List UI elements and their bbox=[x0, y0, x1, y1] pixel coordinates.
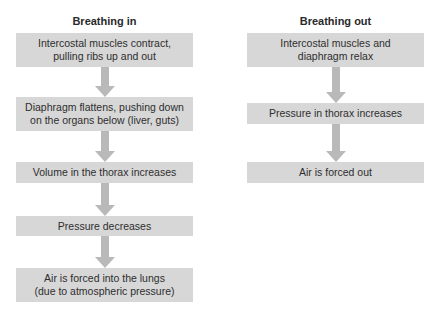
arrow-down-icon bbox=[95, 236, 115, 268]
breathing-in-step-2: Diaphragm flattens, pushing down on the … bbox=[16, 97, 193, 131]
breathing-in-step-4: Pressure decreases bbox=[16, 216, 193, 236]
breathing-out-step-1: Intercostal muscles and diaphragm relax bbox=[247, 33, 424, 67]
breathing-in-step-3: Volume in the thorax increases bbox=[16, 162, 193, 183]
breathing-out-step-3: Air is forced out bbox=[247, 162, 424, 183]
arrow-down-icon bbox=[95, 183, 115, 216]
breathing-in-step-5: Air is forced into the lungs (due to atm… bbox=[16, 268, 193, 302]
breathing-in-title: Breathing in bbox=[16, 15, 193, 27]
arrow-down-icon bbox=[326, 124, 346, 162]
breathing-out-step-2: Pressure in thorax increases bbox=[247, 103, 424, 124]
arrow-down-icon bbox=[326, 67, 346, 103]
breathing-out-title: Breathing out bbox=[247, 15, 424, 27]
arrow-down-icon bbox=[95, 67, 115, 97]
breathing-in-step-1: Intercostal muscles contract, pulling ri… bbox=[16, 33, 193, 67]
arrow-down-icon bbox=[95, 131, 115, 162]
